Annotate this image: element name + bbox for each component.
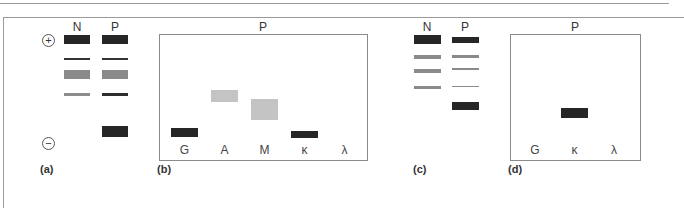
antiserum-label: G xyxy=(525,143,545,157)
gel-band xyxy=(102,35,128,44)
gel-band xyxy=(102,93,128,96)
gel-band xyxy=(102,58,128,60)
panel-label-b: (b) xyxy=(157,163,171,175)
antiserum-label: λ xyxy=(604,143,624,157)
gel-band xyxy=(171,128,198,137)
gel-band xyxy=(414,69,441,73)
gel-band xyxy=(414,86,441,89)
gel-band xyxy=(64,35,90,44)
gel-band xyxy=(102,70,128,79)
antiserum-label: G xyxy=(175,143,195,157)
gel-band xyxy=(452,55,479,58)
gel-band xyxy=(64,93,90,96)
gel-band xyxy=(452,86,479,87)
antiserum-label: M xyxy=(255,143,275,157)
gel-band xyxy=(251,99,278,120)
panel-label-c: (c) xyxy=(413,163,426,175)
gel-band xyxy=(64,58,90,60)
gel-band xyxy=(211,90,238,102)
panel-d-title: P xyxy=(562,20,588,34)
gel-band xyxy=(414,55,441,59)
lane-a-p xyxy=(102,0,128,188)
anode-plus-icon: + xyxy=(42,34,55,47)
antiserum-label: κ xyxy=(295,143,315,157)
lane-a-n xyxy=(64,0,90,188)
gel-band xyxy=(452,68,479,70)
gel-band xyxy=(452,102,479,110)
immunofixation-box-d xyxy=(510,34,641,161)
lane-c-n xyxy=(414,0,441,188)
panel-label-a: (a) xyxy=(40,163,53,175)
antiserum-label: λ xyxy=(335,143,355,157)
gel-band xyxy=(64,70,90,79)
immunofixation-box-b xyxy=(159,34,368,161)
gel-band xyxy=(414,35,441,44)
gel-band xyxy=(561,108,588,118)
antiserum-label: A xyxy=(215,143,235,157)
gel-band xyxy=(291,131,318,138)
top-rule xyxy=(0,0,669,4)
antiserum-label: κ xyxy=(565,143,585,157)
cathode-minus-icon: − xyxy=(42,137,55,150)
gel-band xyxy=(452,37,479,43)
lane-c-p xyxy=(452,0,479,188)
panel-b-title: P xyxy=(250,20,276,34)
gel-band xyxy=(102,126,128,137)
panel-label-d: (d) xyxy=(508,163,522,175)
